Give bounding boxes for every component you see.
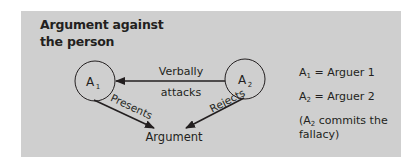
edge-label-verbally: Verbally (159, 65, 204, 78)
node-argument: Argument (145, 130, 203, 144)
node-a1-label: A (86, 75, 95, 89)
legend-row-a2: A2 = Arguer 2 (299, 90, 399, 104)
node-a2-subscript: 2 (248, 81, 252, 89)
legend-note: (A2 commits the fallacy) (299, 114, 399, 142)
edge-verbally-attacks: Verbally attacks (116, 65, 225, 99)
legend-row-a1: A1 = Arguer 1 (299, 66, 399, 80)
legend-a1-text: = Arguer 1 (311, 66, 375, 79)
legend-a2-text: = Arguer 2 (311, 90, 375, 103)
edge-label-attacks: attacks (161, 86, 202, 99)
legend-a2-symbol: A (299, 90, 307, 103)
legend-a1-symbol: A (299, 66, 307, 79)
legend-note-prefix: (A (299, 114, 311, 127)
legend-note-text: commits the fallacy) (299, 114, 388, 141)
legend: A1 = Arguer 1 A2 = Arguer 2 (A2 commits … (299, 66, 399, 152)
node-a2-label: A (238, 73, 247, 87)
node-a1-subscript: 1 (96, 83, 100, 91)
node-a1: A 1 (75, 61, 115, 101)
node-a1-circle (75, 61, 115, 101)
edge-presents: Presents (94, 91, 155, 128)
